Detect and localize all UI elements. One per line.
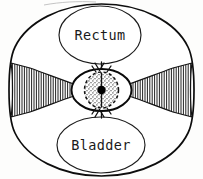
rectum-label: Rectum xyxy=(74,27,125,43)
bladder-label: Bladder xyxy=(71,137,131,153)
diagram-canvas: Rectum Bladder xyxy=(0,0,203,179)
center-point xyxy=(97,86,105,94)
bladder-structure: Bladder xyxy=(57,117,145,173)
anatomical-diagram-figure: Rectum Bladder xyxy=(0,0,203,179)
rectum-structure: Rectum xyxy=(59,6,141,64)
central-canal xyxy=(72,69,132,111)
